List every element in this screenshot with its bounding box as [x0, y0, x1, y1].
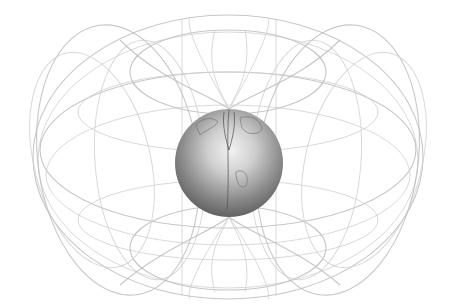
earth-globe	[175, 109, 283, 217]
magnetic-field-diagram: Earth's dipole magnetic field	[0, 0, 455, 308]
diagram-canvas	[0, 0, 455, 308]
